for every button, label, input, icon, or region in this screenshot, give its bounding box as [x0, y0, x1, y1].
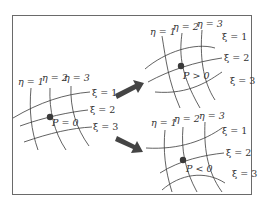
eta-label-2: η = 2 [173, 21, 199, 32]
eta-label-3: η = 3 [64, 72, 90, 83]
eta-label-2: η = 2 [174, 113, 200, 124]
xi-label-2: ξ = 2 [226, 147, 251, 158]
xi-label-1: ξ = 1 [222, 31, 247, 42]
eta-line-3 [205, 122, 222, 192]
arrow-to-p-positive-icon [115, 80, 144, 99]
eta-line-3 [71, 86, 89, 146]
xi-line-1 [146, 128, 222, 148]
xi-label-3: ξ = 3 [93, 121, 118, 132]
point-label: P = 0 [51, 117, 78, 128]
point-label: P < 0 [185, 163, 212, 174]
eta-label-3: η = 3 [199, 110, 225, 121]
panel-p-positive: η = 1 η = 2 η = 3 ξ = 1 ξ = 2 ξ = 3 P > … [145, 18, 255, 108]
eta-line-1 [30, 88, 38, 150]
xi-label-1: ξ = 1 [222, 125, 247, 136]
xi-label-2: ξ = 2 [224, 52, 249, 63]
point-label: P > 0 [182, 70, 209, 81]
figure-frame [13, 16, 252, 195]
panel-original: η = 1 η = 2 η = 3 ξ = 1 ξ = 2 ξ = 3 P = … [13, 72, 118, 150]
eta-label-1: η = 1 [151, 117, 177, 128]
eta-label-3: η = 3 [197, 18, 223, 29]
eta-line-1 [164, 130, 172, 192]
eta-line-1 [162, 36, 180, 108]
xi-label-1: ξ = 1 [92, 87, 117, 98]
xi-label-3: ξ = 3 [232, 168, 257, 179]
eta-label-1: η = 1 [18, 76, 44, 87]
panel-p-negative: η = 1 η = 2 η = 3 ξ = 1 ξ = 2 ξ = 3 P < … [146, 110, 257, 192]
eta-label-1: η = 1 [150, 26, 176, 37]
point-p [178, 63, 184, 69]
xi-label-3: ξ = 3 [230, 75, 255, 86]
grid-control-diagram: η = 1 η = 2 η = 3 ξ = 1 ξ = 2 ξ = 3 P = … [0, 0, 265, 219]
arrow-to-p-negative-icon [115, 136, 143, 153]
xi-line-3 [162, 175, 225, 190]
eta-line-3 [201, 30, 215, 100]
xi-label-2: ξ = 2 [90, 104, 115, 115]
